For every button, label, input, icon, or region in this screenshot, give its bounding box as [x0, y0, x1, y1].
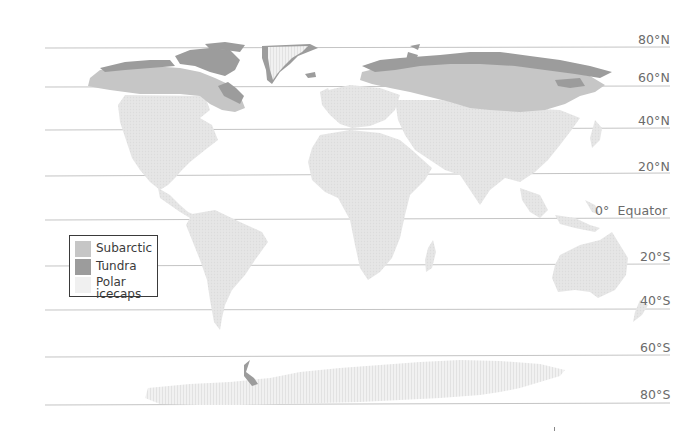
latitude-label-equator: 0° Equator: [595, 205, 667, 218]
latitude-label-20n: 20°N: [638, 161, 670, 174]
legend-item-tundra: Tundra: [75, 259, 157, 274]
subarctic-swatch-icon: [75, 241, 91, 257]
polar-icecaps-swatch-icon: [75, 277, 91, 293]
legend-label: Tundra: [96, 259, 137, 274]
latitude-label-20s: 20°S: [640, 251, 671, 264]
latitude-label-40s: 40°S: [640, 295, 671, 308]
latitude-label-60n: 60°N: [638, 72, 670, 85]
legend-label-line2: icecaps: [96, 289, 141, 301]
latitude-label-40n: 40°N: [638, 115, 670, 128]
tundra-swatch-icon: [75, 259, 91, 275]
map-legend: Subarctic Tundra Polar icecaps: [69, 235, 158, 297]
legend-label: Subarctic: [96, 241, 152, 256]
world-climate-map: [0, 0, 697, 433]
legend-item-polar-icecaps: Polar icecaps: [75, 277, 157, 301]
latitude-label-60s: 60°S: [640, 342, 671, 355]
land-masses: [118, 85, 648, 330]
latitude-label-80n: 80°N: [638, 34, 670, 47]
page-mark: [554, 427, 555, 431]
legend-label: Polar icecaps: [96, 277, 141, 300]
latitude-label-80s: 80°S: [640, 389, 671, 402]
legend-item-subarctic: Subarctic: [75, 241, 157, 256]
